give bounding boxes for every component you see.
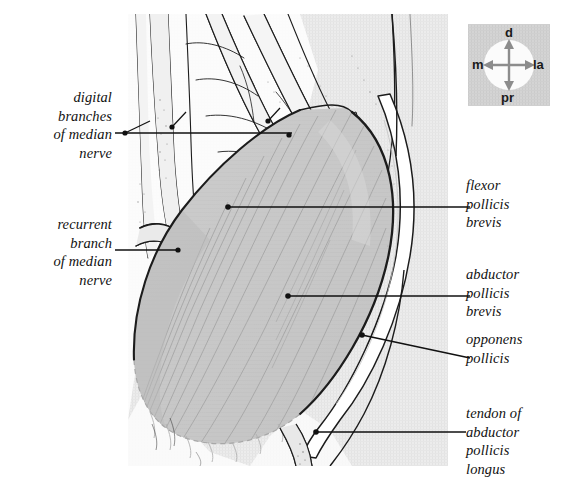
label-digital-branches-of-median-nerve: digital branches of median nerve bbox=[0, 88, 112, 162]
label-recurrent-branch-of-median-nerve: recurrent branch of median nerve bbox=[0, 215, 112, 289]
dot-flexor-pollicis-brevis bbox=[225, 204, 231, 210]
label-tendon-of-abductor-pollicis-longus: tendon of abductor pollicis longus bbox=[466, 404, 566, 478]
dot-digital-branches-4 bbox=[286, 132, 291, 137]
compass-label-proximal: pr bbox=[501, 91, 514, 104]
label-opponens-pollicis: opponens pollicis bbox=[466, 330, 566, 367]
compass-label-medial: m bbox=[472, 58, 484, 71]
label-abductor-pollicis-brevis: abductor pollicis brevis bbox=[466, 265, 566, 321]
compass-label-lateral: la bbox=[533, 58, 544, 71]
dot-abductor-pollicis-brevis bbox=[285, 293, 291, 299]
compass-label-distal: d bbox=[505, 26, 513, 39]
dot-recurrent-branch bbox=[175, 247, 180, 252]
dot-tendon-apl bbox=[313, 429, 319, 435]
dot-opponens-pollicis bbox=[359, 332, 365, 338]
label-flexor-pollicis-brevis: flexor pollicis brevis bbox=[466, 176, 566, 232]
